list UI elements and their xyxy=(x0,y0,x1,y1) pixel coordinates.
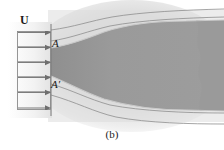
disk-bottom-label: A′ xyxy=(51,79,60,90)
disk-top-label: A xyxy=(52,38,59,49)
inflow-velocity-grid xyxy=(17,31,51,110)
inflow-grid-box xyxy=(18,32,51,110)
inflow-velocity-arrow xyxy=(18,75,51,80)
actuator-disk-figure: U A A′ (b) xyxy=(0,0,224,150)
freestream-velocity-label: U xyxy=(20,14,29,26)
inflow-velocity-arrow xyxy=(18,90,51,95)
inflow-velocity-arrow xyxy=(18,60,51,65)
figure-caption: (b) xyxy=(0,128,224,140)
inflow-velocity-arrow xyxy=(18,45,51,50)
